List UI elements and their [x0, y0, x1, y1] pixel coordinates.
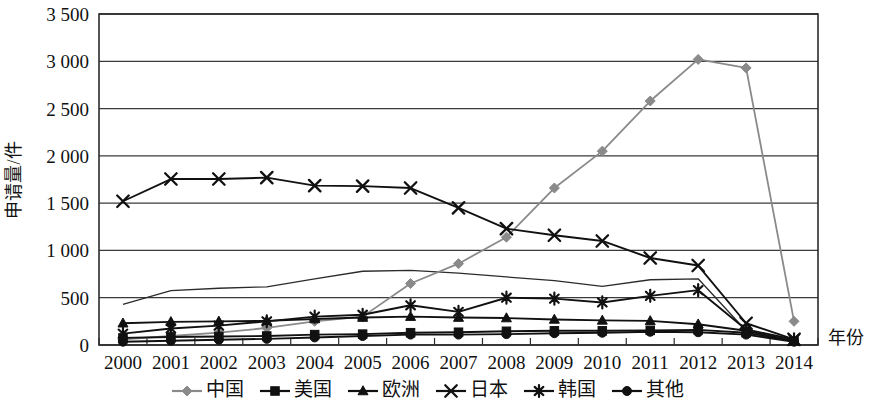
y-tick-label: 3 000 [46, 51, 89, 72]
data-point-circle [262, 334, 271, 343]
y-tick-label: 500 [61, 288, 90, 309]
legend-label: 中国 [206, 379, 244, 400]
y-tick-label: 2 500 [46, 99, 89, 120]
legend-item-欧洲[interactable]: 欧洲 [348, 379, 420, 400]
x-tick-label: 2008 [487, 352, 525, 373]
data-point-circle [646, 327, 655, 336]
y-tick-label: 3 500 [46, 4, 89, 25]
data-point-square [271, 387, 280, 396]
y-tick-label: 2 000 [46, 146, 89, 167]
x-tick-label: 2014 [775, 352, 814, 373]
data-point-circle [790, 337, 799, 346]
legend-item-中国[interactable]: 中国 [172, 379, 244, 400]
data-point-circle [454, 330, 463, 339]
legend-label: 其他 [646, 379, 684, 400]
x-tick-label: 2000 [104, 352, 142, 373]
data-point-circle [742, 330, 751, 339]
legend-item-美国[interactable]: 美国 [260, 379, 332, 400]
y-tick-labels-group: 05001 0001 5002 0002 5003 0003 500 [46, 4, 89, 356]
y-tick-label: 1 000 [46, 240, 89, 261]
data-point-circle [598, 328, 607, 337]
x-tick-label: 2011 [632, 352, 669, 373]
data-point-x [117, 196, 128, 208]
x-tick-label: 2012 [679, 352, 717, 373]
x-axis-title: 年份 [828, 328, 864, 348]
legend-item-韩国[interactable]: 韩国 [524, 379, 596, 400]
y-tick-label: 1 500 [46, 193, 89, 214]
x-tick-label: 2007 [440, 352, 478, 373]
data-point-diamond [182, 386, 192, 396]
x-tick-label: 2013 [727, 352, 765, 373]
x-tick-label: 2006 [392, 352, 430, 373]
data-point-diamond [454, 259, 464, 269]
y-axis-title: 申请量/件 [4, 141, 24, 218]
legend-item-其他[interactable]: 其他 [612, 379, 684, 400]
legend-label: 美国 [294, 379, 332, 400]
legend-item-日本[interactable]: 日本 [436, 379, 508, 400]
data-point-diamond [789, 316, 799, 326]
data-point-circle [214, 335, 223, 344]
y-tick-label: 0 [80, 335, 90, 356]
legend-label: 日本 [470, 379, 508, 400]
data-point-circle [358, 332, 367, 341]
chart-container: 05001 0001 5002 0002 5003 0003 500 20002… [0, 0, 870, 408]
data-point-circle [118, 337, 127, 346]
x-tick-label: 2005 [344, 352, 382, 373]
data-point-circle [502, 330, 511, 339]
data-point-circle [166, 336, 175, 345]
x-tick-label: 2002 [200, 352, 238, 373]
chart-legend: 中国美国欧洲日本韩国其他 [172, 379, 684, 400]
data-point-circle [550, 329, 559, 338]
data-point-circle [310, 333, 319, 342]
series-1 [118, 54, 799, 344]
x-tick-label: 2010 [583, 352, 621, 373]
x-tick-label: 2009 [535, 352, 573, 373]
data-point-circle [623, 387, 632, 396]
line-chart-figure: 05001 0001 5002 0002 5003 0003 500 20002… [0, 0, 870, 408]
legend-label: 欧洲 [382, 379, 420, 400]
data-point-x [453, 202, 465, 214]
data-point-circle [694, 328, 703, 337]
series-group [117, 54, 800, 346]
x-tick-label: 2003 [248, 352, 286, 373]
x-tick-labels-group: 2000200120022003200420052006200720082009… [104, 352, 814, 373]
x-tick-label: 2004 [296, 352, 335, 373]
x-tick-label: 2001 [152, 352, 190, 373]
legend-label: 韩国 [558, 379, 596, 400]
data-point-circle [406, 330, 415, 339]
data-point-diamond [741, 63, 751, 73]
